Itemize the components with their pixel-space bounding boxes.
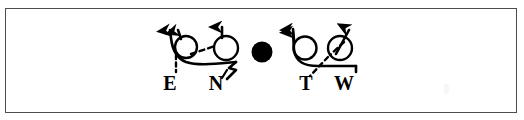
ball-marker: [252, 42, 273, 63]
scan-artifact: [444, 84, 449, 94]
left-group: E N: [163, 27, 238, 94]
player-circle-left-outer: [214, 36, 238, 60]
route-hook-left: [227, 62, 236, 79]
play-diagram-canvas: E N T W: [0, 0, 524, 120]
player-label-left-outer: N: [209, 72, 224, 94]
player-label-left-inner: E: [163, 72, 176, 94]
player-circle-right-inner: [294, 37, 317, 60]
player-label-right-inner: T: [299, 72, 313, 94]
motion-line-left-dashed: [191, 46, 215, 54]
play-diagram-root: E N T W: [0, 0, 524, 120]
player-circle-left-inner: [175, 36, 197, 58]
release-arrow-right-inner: [293, 29, 294, 40]
player-label-right-outer: W: [334, 72, 354, 94]
right-group: T W: [293, 29, 356, 94]
